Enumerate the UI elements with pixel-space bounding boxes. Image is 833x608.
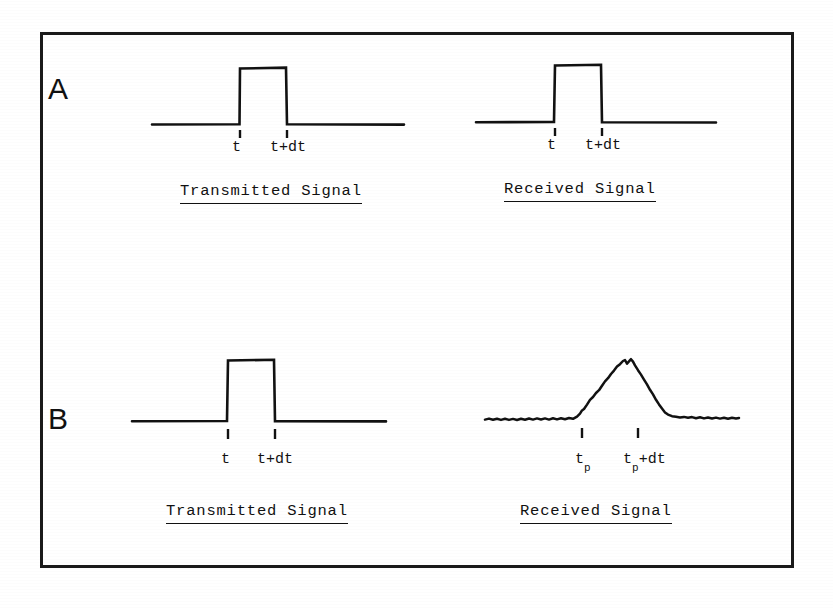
row-label-a: A [48, 74, 68, 104]
waveform-path [132, 360, 386, 422]
caption-b-received: Received Signal [520, 504, 672, 524]
tick-label-tp-plus-dt-main: t [623, 451, 632, 468]
panel-a-received: t t+dt Received Signal [472, 54, 722, 144]
tick-label-t: t [221, 452, 230, 467]
tick-label-t-plus-dt: t+dt [585, 138, 621, 153]
tick-label-t-plus-dt: t+dt [270, 140, 306, 155]
tick-label-tp-subscript: p [584, 462, 591, 474]
tick-label-tp-plus-dt-subscript: p [632, 462, 639, 474]
tick-label-t: t [232, 140, 241, 155]
tick-label-t: t [547, 138, 556, 153]
tick-label-tp-plus-dt-tail: +dt [639, 451, 666, 468]
waveform-path [476, 65, 716, 123]
waveform-a-received [472, 54, 722, 144]
tick-label-tp-plus-dt: tp+dt [623, 452, 666, 467]
caption-a-received: Received Signal [504, 182, 656, 202]
row-label-b: B [48, 404, 68, 434]
tick-label-t-plus-dt: t+dt [257, 452, 293, 467]
caption-a-transmitted: Transmitted Signal [180, 184, 362, 204]
tick-label-tp: tp [575, 452, 591, 467]
waveform-path [485, 359, 739, 420]
figure-root: A t t+dt Transmitted Signal t t+dt Recei… [0, 0, 833, 608]
caption-b-transmitted: Transmitted Signal [166, 504, 348, 524]
panel-b-received: tp tp+dt Received Signal [483, 352, 741, 447]
panel-a-transmitted: t t+dt Transmitted Signal [148, 56, 408, 146]
panel-b-transmitted: t t+dt Transmitted Signal [128, 352, 393, 447]
tick-label-tp-main: t [575, 451, 584, 468]
waveform-b-received [483, 352, 741, 447]
waveform-path [152, 68, 404, 125]
waveform-a-transmitted [148, 56, 408, 146]
waveform-b-transmitted [128, 352, 393, 447]
